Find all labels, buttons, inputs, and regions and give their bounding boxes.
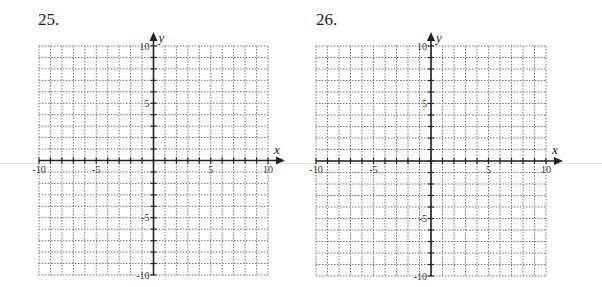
y-axis-label: y (157, 30, 165, 45)
axes: -10-5510105-5-10xy (309, 30, 563, 282)
y-tick-label: 5 (422, 98, 427, 109)
x-axis-label: x (273, 142, 280, 157)
y-tick-label: -10 (414, 271, 427, 282)
x-arrow-icon (276, 157, 285, 165)
x-tick-label: 5 (208, 164, 213, 175)
y-axis-label: y (434, 30, 442, 45)
axes: -10-5510105-5-10xy (32, 30, 285, 281)
x-tick-label: -10 (32, 164, 45, 175)
x-tick-label: -5 (92, 164, 100, 175)
coordinate-grid: -10-5510105-5-10xy (300, 0, 602, 287)
x-axis-label: x (551, 142, 558, 157)
y-arrow-icon (150, 32, 158, 41)
y-tick-label: 10 (417, 41, 427, 52)
x-tick-label: 5 (486, 164, 491, 175)
y-arrow-icon (427, 32, 435, 41)
y-tick-label: -5 (141, 212, 149, 223)
x-tick-label: 10 (541, 164, 551, 175)
problem-25: 25. -10-5510105-5-10xy (0, 0, 300, 287)
x-tick-label: -10 (309, 164, 322, 175)
x-tick-label: -5 (369, 164, 377, 175)
problem-26: 26. -10-5510105-5-10xy (300, 0, 600, 287)
coordinate-grid: -10-5510105-5-10xy (0, 0, 300, 287)
x-tick-label: 10 (263, 164, 273, 175)
y-tick-label: 5 (145, 98, 150, 109)
y-tick-label: -5 (419, 213, 427, 224)
y-tick-label: -10 (136, 270, 149, 281)
y-tick-label: 10 (140, 41, 150, 52)
x-arrow-icon (554, 157, 563, 165)
